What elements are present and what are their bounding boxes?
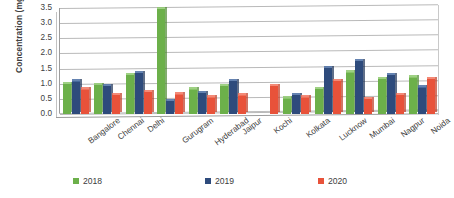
bar-2018[interactable] xyxy=(220,86,228,114)
bar-2018[interactable] xyxy=(315,89,323,114)
bar-2019[interactable] xyxy=(355,61,363,114)
y-tick-label: 1.0 xyxy=(26,79,52,88)
plot-area xyxy=(56,8,438,114)
bar-side-face xyxy=(165,7,167,112)
bar-top-face xyxy=(81,87,89,90)
bar-group xyxy=(218,8,250,114)
bar-top-face xyxy=(396,93,404,96)
bar-2019[interactable] xyxy=(198,93,206,115)
bar-top-face xyxy=(301,95,309,98)
bar-top-face xyxy=(378,77,386,80)
bar-top-face xyxy=(315,87,323,90)
bar-2019[interactable] xyxy=(72,81,80,114)
bar-group xyxy=(123,8,155,114)
bar-side-face xyxy=(372,97,374,112)
bar-group xyxy=(92,8,124,114)
bar-top-face xyxy=(72,79,80,82)
bar-series-container xyxy=(60,8,438,114)
bar-top-face xyxy=(387,73,395,76)
bar-2019[interactable] xyxy=(103,86,111,114)
chart-legend: 201820192020 xyxy=(0,172,454,190)
bar-top-face xyxy=(220,84,228,87)
bar-group xyxy=(281,8,313,114)
bar-2019[interactable] xyxy=(418,87,426,114)
bar-2018[interactable] xyxy=(157,9,165,114)
bar-side-face xyxy=(404,93,406,112)
bar-2020[interactable] xyxy=(175,94,183,114)
bar-2018[interactable] xyxy=(94,85,102,114)
bar-side-face xyxy=(183,92,185,112)
bar-2018[interactable] xyxy=(126,75,134,114)
bar-side-face xyxy=(278,84,280,112)
bar-top-face xyxy=(283,96,291,99)
x-category-label: Mumbai xyxy=(368,116,397,141)
x-category-label: Kolkata xyxy=(305,116,332,140)
bar-top-face xyxy=(157,7,165,10)
bar-top-face xyxy=(189,87,197,90)
bar-2019[interactable] xyxy=(324,68,332,114)
bar-top-face xyxy=(207,95,215,98)
bar-2018[interactable] xyxy=(346,72,354,114)
legend-label: 2019 xyxy=(215,176,234,186)
bar-top-face xyxy=(324,66,332,69)
x-category-label: Lucknow xyxy=(337,116,368,143)
legend-label: 2020 xyxy=(328,176,347,186)
bar-side-face xyxy=(309,95,311,112)
bar-top-face xyxy=(409,75,417,78)
bar-2020[interactable] xyxy=(333,81,341,114)
bar-2018[interactable] xyxy=(189,89,197,114)
bar-group xyxy=(344,8,376,114)
x-category-label: Bangalore xyxy=(86,116,121,146)
bar-top-face xyxy=(94,83,102,86)
bar-2020[interactable] xyxy=(427,79,435,114)
legend-item-2018[interactable]: 2018 xyxy=(73,176,102,186)
y-tick-label: 3.0 xyxy=(26,18,52,27)
x-category-label: Delhi xyxy=(145,116,165,134)
legend-item-2019[interactable]: 2019 xyxy=(205,176,234,186)
x-category-label: Chennai xyxy=(116,116,146,142)
bar-top-face xyxy=(103,84,111,87)
bar-side-face xyxy=(341,79,343,112)
bar-group xyxy=(407,8,439,114)
bar-top-face xyxy=(175,92,183,95)
x-category-label: Noida xyxy=(429,116,452,136)
bar-2018[interactable] xyxy=(63,84,71,114)
bar-top-face xyxy=(346,70,354,73)
bar-top-face xyxy=(144,90,152,93)
bar-side-face xyxy=(215,95,217,112)
bar-top-face xyxy=(355,59,363,62)
bar-top-face xyxy=(238,93,246,96)
bar-group xyxy=(312,8,344,114)
bar-2018[interactable] xyxy=(409,77,417,114)
bar-side-face xyxy=(435,77,437,112)
bar-2019[interactable] xyxy=(135,73,143,114)
bar-top-face xyxy=(198,91,206,94)
legend-item-2020[interactable]: 2020 xyxy=(318,176,347,186)
plot-right-edge xyxy=(438,5,439,115)
x-category-label: Nagpur xyxy=(399,116,426,139)
bar-side-face xyxy=(152,90,154,112)
bar-top-face xyxy=(112,93,120,96)
legend-swatch-icon xyxy=(73,178,79,184)
x-axis-category-labels: BangaloreChennaiDelhiGurugramHyderabadJa… xyxy=(56,112,438,156)
bar-group xyxy=(375,8,407,114)
y-tick-label: 0.5 xyxy=(26,94,52,103)
y-tick-label: 2.0 xyxy=(26,48,52,57)
bar-2018[interactable] xyxy=(378,79,386,114)
bar-2020[interactable] xyxy=(270,86,278,114)
bar-group xyxy=(186,8,218,114)
y-tick-label: 1.5 xyxy=(26,64,52,73)
bar-top-face xyxy=(229,79,237,82)
bar-top-face xyxy=(364,97,372,100)
bar-2020[interactable] xyxy=(144,92,152,114)
bar-2019[interactable] xyxy=(387,75,395,114)
bar-top-face xyxy=(270,84,278,87)
x-category-label: Gurugram xyxy=(181,116,216,145)
legend-swatch-icon xyxy=(205,178,211,184)
bar-top-face xyxy=(166,99,174,102)
y-tick-label: 3.5 xyxy=(26,3,52,12)
bar-2019[interactable] xyxy=(229,81,237,114)
bar-2020[interactable] xyxy=(81,89,89,114)
bar-side-face xyxy=(246,93,248,112)
bar-group xyxy=(155,8,187,114)
